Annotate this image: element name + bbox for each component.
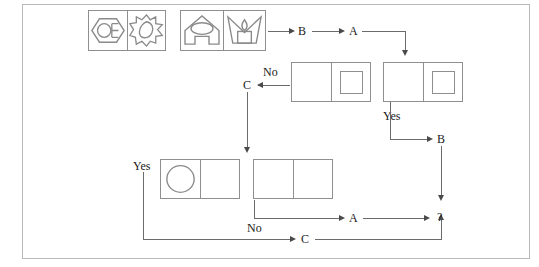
arch-house-with-ellipse-icon — [181, 11, 223, 50]
stimulus-pair-5 — [160, 159, 240, 199]
edge-pair6-no-down — [254, 200, 255, 219]
stimulus-pair-2 — [180, 10, 266, 51]
edge-b-right-down — [441, 146, 442, 198]
square-icon — [432, 71, 455, 94]
node-a-bottom: A — [349, 212, 358, 224]
edge-no-to-a-bottom — [254, 218, 340, 219]
edge-c-bottom-right — [315, 239, 442, 240]
stimulus-pair-6 — [253, 159, 333, 199]
arrowhead-to-c-mid — [257, 82, 263, 88]
arrowhead-to-b-top — [289, 28, 295, 34]
arrowhead-to-c-bottom — [290, 236, 296, 242]
edge-label-yes-right: Yes — [383, 110, 400, 122]
stimulus-pair-3-right-cell — [331, 63, 370, 101]
stimulus-pair-6-left-cell — [254, 160, 293, 198]
stimulus-pair-1 — [88, 10, 166, 51]
circle-icon — [161, 160, 200, 198]
edge-label-no-mid: No — [263, 66, 278, 78]
stimulus-pair-3-left-cell — [292, 63, 331, 101]
square-icon — [340, 71, 363, 94]
arrowhead-b-right-to-question — [438, 195, 444, 201]
arrowhead-to-b-right — [427, 136, 433, 142]
edge-pair4-down — [390, 102, 391, 140]
node-a-top: A — [349, 25, 358, 37]
arrowhead-to-a-bottom — [339, 215, 345, 221]
diagram-canvas: B A No C Yes B — [0, 0, 539, 267]
stimulus-pair-2-right-cell — [223, 11, 265, 50]
stimulus-pair-4-left-cell — [384, 63, 423, 101]
arrowhead-to-a-top — [339, 28, 345, 34]
hexagon-with-circle-and-comb-icon — [89, 11, 127, 50]
stimulus-pair-1-left-cell — [89, 11, 127, 50]
node-c-mid: C — [243, 79, 251, 91]
node-b-right: B — [437, 133, 445, 145]
stimulus-pair-5-right-cell — [200, 160, 239, 198]
edge-label-no-bottom: No — [247, 222, 262, 234]
edge-label-yes-left: Yes — [133, 160, 150, 172]
arrowhead-to-question — [424, 215, 430, 221]
starburst-with-blob-icon — [128, 11, 165, 50]
stimulus-pair-4-right-cell — [423, 63, 462, 101]
edge-a-top-right-segment — [362, 31, 406, 32]
edge-yes-to-c-bottom — [143, 239, 291, 240]
node-b-top: B — [298, 25, 306, 37]
edge-a-bottom-to-question — [363, 218, 425, 219]
edge-pair2-to-b — [268, 31, 290, 32]
edge-b-to-a-top — [312, 31, 340, 32]
edge-to-b-right — [390, 139, 428, 140]
stimulus-pair-5-left-cell — [161, 160, 200, 198]
node-c-bottom: C — [301, 233, 309, 245]
node-question: ? — [437, 211, 442, 223]
stimulus-pair-2-left-cell — [181, 11, 223, 50]
edge-c-mid-down — [247, 92, 248, 150]
arrowhead-into-pair4 — [402, 50, 408, 56]
stimulus-pair-4 — [383, 62, 463, 102]
crown-with-flame-icon — [224, 11, 265, 50]
stimulus-pair-1-right-cell — [127, 11, 165, 50]
stimulus-pair-6-right-cell — [293, 160, 332, 198]
edge-pair5-yes-down — [143, 172, 144, 240]
stimulus-pair-3 — [291, 62, 371, 102]
arrowhead-into-pair6 — [244, 147, 250, 153]
